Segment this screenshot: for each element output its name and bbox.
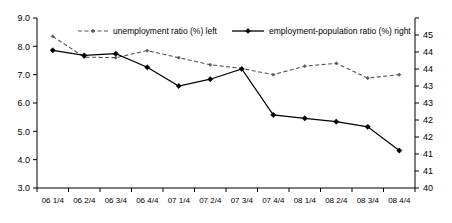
series-marker-2	[113, 51, 118, 56]
y2-axis-tick-label: 42	[423, 115, 433, 125]
y2-axis-tick-label: 44	[423, 64, 433, 74]
series-line-2	[53, 50, 400, 150]
x-axis-category-label: 07 3/4	[231, 196, 254, 205]
series-marker-1	[272, 73, 275, 76]
chart-container: 3.04.05.06.07.08.09.04041414242434344444…	[0, 0, 452, 223]
y2-axis-tick-label: 42	[423, 132, 433, 142]
axis-frame	[37, 18, 415, 188]
y-axis-tick-label: 4.0	[17, 155, 30, 165]
series-marker-2	[176, 83, 181, 88]
x-axis-category-label: 06 4/4	[136, 196, 159, 205]
series-marker-1	[209, 63, 212, 66]
series-line-1	[53, 36, 400, 78]
x-axis-category-label: 07 1/4	[168, 196, 191, 205]
y2-axis-tick-label: 41	[423, 166, 433, 176]
chart-canvas: 3.04.05.06.07.08.09.04041414242434344444…	[0, 0, 452, 223]
x-axis-category-label: 07 4/4	[262, 196, 285, 205]
series-marker-1	[177, 56, 180, 59]
y2-axis-tick-label: 45	[423, 30, 433, 40]
y2-axis-tick-label: 40	[423, 183, 433, 193]
legend-marker-2	[246, 29, 251, 34]
y2-axis-tick-label: 43	[423, 81, 433, 91]
series-marker-2	[302, 116, 307, 121]
series-marker-2	[334, 119, 339, 124]
y-axis-tick-label: 9.0	[17, 13, 30, 23]
x-axis-category-label: 06 3/4	[105, 196, 128, 205]
y-axis-tick-label: 3.0	[17, 183, 30, 193]
series-marker-2	[145, 65, 150, 70]
x-axis-category-label: 08 1/4	[294, 196, 317, 205]
y-axis-tick-label: 8.0	[17, 42, 30, 52]
series-marker-1	[398, 73, 401, 76]
y2-axis-tick-label: 41	[423, 149, 433, 159]
legend-label-2: employment-population ratio (%) right	[269, 26, 411, 36]
series-marker-1	[366, 76, 369, 79]
x-axis-category-label: 06 2/4	[73, 196, 96, 205]
y-axis-tick-label: 6.0	[17, 98, 30, 108]
y-axis-tick-label: 7.0	[17, 70, 30, 80]
y2-axis-tick-label: 43	[423, 98, 433, 108]
series-marker-1	[303, 64, 306, 67]
y-axis-tick-label: 5.0	[17, 127, 30, 137]
x-axis-category-label: 07 2/4	[199, 196, 222, 205]
y2-axis-tick-label: 44	[423, 47, 433, 57]
legend-label-1: unemployment ratio (%) left	[113, 26, 218, 36]
series-marker-1	[335, 62, 338, 65]
x-axis-category-label: 08 2/4	[325, 196, 348, 205]
x-axis-category-label: 08 4/4	[388, 196, 411, 205]
series-marker-2	[208, 77, 213, 82]
series-marker-2	[50, 48, 55, 53]
legend-marker-1	[91, 29, 95, 33]
series-marker-1	[146, 49, 149, 52]
x-axis-category-label: 06 1/4	[42, 196, 65, 205]
x-axis-category-label: 08 3/4	[357, 196, 380, 205]
